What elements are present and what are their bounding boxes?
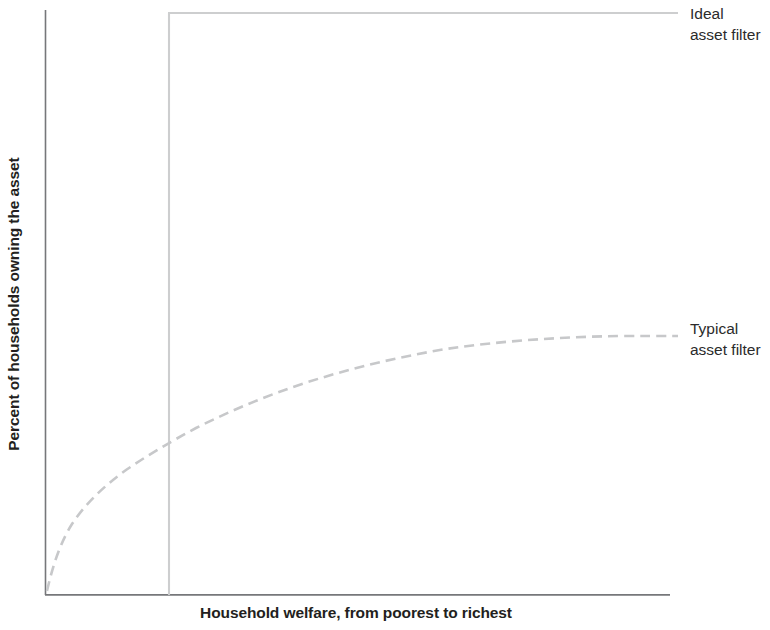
chart-figure: Household welfare, from poorest to riche… xyxy=(0,0,770,630)
typical-filter-curve xyxy=(47,336,678,591)
ideal-asset-filter-label: Ideal asset filter xyxy=(690,3,761,45)
typical-asset-filter-label-line2: asset filter xyxy=(690,339,761,360)
ideal-asset-filter-label-line1: Ideal xyxy=(690,5,724,22)
ideal-asset-filter-label-line2: asset filter xyxy=(690,24,761,45)
typical-asset-filter-label: Typical asset filter xyxy=(690,318,761,360)
x-axis-title: Household welfare, from poorest to riche… xyxy=(0,604,712,622)
y-axis-title: Percent of households owning the asset xyxy=(5,157,23,450)
typical-asset-filter-label-line1: Typical xyxy=(690,320,738,337)
chart-canvas xyxy=(0,0,770,630)
